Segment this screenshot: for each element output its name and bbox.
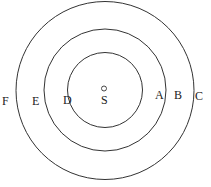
label-b: B [174, 88, 182, 102]
inner-circle [68, 53, 143, 128]
label-e: E [32, 94, 39, 108]
label-a: A [155, 88, 164, 102]
concentric-circles-diagram: S A B C D E F [0, 0, 211, 187]
middle-circle [44, 29, 166, 151]
label-c: C [195, 89, 203, 103]
source-marker [102, 86, 107, 91]
label-s: S [101, 93, 108, 107]
diagram-canvas: S A B C D E F [0, 0, 211, 187]
label-d: D [63, 93, 72, 107]
label-f: F [2, 94, 9, 108]
